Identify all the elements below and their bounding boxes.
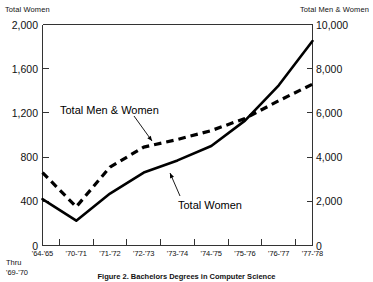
left-axis-tick-label: 1,200 — [12, 106, 38, 120]
right-axis-tick-label: 10,000 — [316, 18, 348, 32]
data-series — [43, 41, 313, 221]
right-axis-title: Total Men & Women — [300, 5, 369, 14]
series-label-women: Total Women — [178, 199, 242, 211]
axis-ticks — [43, 69, 313, 246]
series-label-men-women: Total Men & Women — [60, 104, 159, 116]
left-axis-tick-label: 800 — [20, 150, 38, 164]
chart-figure: Total Women Total Men & Women 04008001,2… — [0, 0, 373, 282]
series-line-women — [43, 41, 313, 221]
series-line-men-women — [43, 84, 313, 207]
x-axis-tick-label: '77-'78 — [293, 249, 333, 258]
x-axis-note-line: Thru — [6, 258, 28, 268]
figure-caption: Figure 2. Bachelors Degrees in Computer … — [0, 272, 373, 281]
right-axis-tick-label: 4,000 — [316, 150, 342, 164]
left-axis-tick-label: 400 — [20, 194, 38, 208]
axes — [43, 25, 313, 246]
right-axis-tick-label: 8,000 — [316, 62, 342, 76]
right-axis-tick-label: 2,000 — [316, 194, 342, 208]
right-axis-tick-label: 6,000 — [316, 106, 342, 120]
leader-men-women-arrowhead — [147, 136, 152, 141]
annotation-leader-lines — [134, 116, 180, 196]
left-axis-tick-label: 1,600 — [12, 62, 38, 76]
left-axis-title: Total Women — [5, 5, 50, 14]
left-axis-tick-label: 2,000 — [12, 18, 38, 32]
